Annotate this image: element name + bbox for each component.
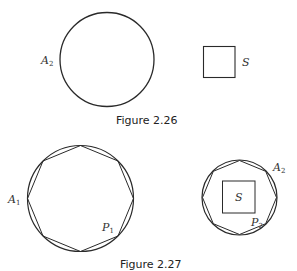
label-a2-small: A2 [272,161,285,175]
circle-a1 [28,146,134,252]
label-a2: A2 [40,54,53,68]
label-p1: P1 [101,221,114,235]
figures-canvas: A2 S Figure 2.26 A1 P1 S A2 P2 Figure 2.… [0,0,297,271]
figure-2-26: A2 S Figure 2.26 [40,13,250,128]
circle-a2 [60,13,154,107]
figure-2-27: A1 P1 S A2 P2 Figure 2.27 [7,146,285,271]
label-a1: A1 [7,193,20,207]
label-s: S [242,56,250,69]
label-inner-s: S [235,191,243,204]
label-p2: P2 [250,216,263,230]
caption-2-27: Figure 2.27 [120,258,182,271]
square-s [204,47,236,78]
caption-2-26: Figure 2.26 [116,114,178,127]
